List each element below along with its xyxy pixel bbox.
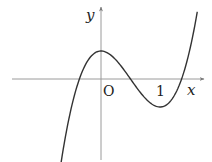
x-axis-label: x (187, 81, 196, 99)
cubic-curve (61, 12, 197, 162)
tick-label-1: 1 (156, 83, 165, 99)
y-axis-label: y (85, 6, 95, 24)
cubic-graph-figure: y x O 1 (0, 0, 212, 162)
origin-label: O (103, 83, 114, 99)
